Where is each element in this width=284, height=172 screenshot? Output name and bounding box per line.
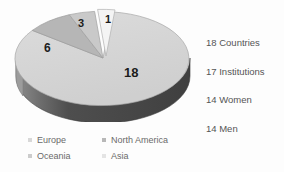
- pie-label-north-america: 6: [44, 42, 51, 54]
- legend-item-europe[interactable]: Europe: [28, 136, 102, 145]
- stat-men: 14 Men: [206, 124, 284, 134]
- legend-item-oceania[interactable]: Oceania: [28, 152, 102, 161]
- pie-label-oceania: 3: [78, 18, 84, 29]
- stat-women: 14 Women: [206, 95, 284, 105]
- legend-item-asia[interactable]: Asia: [102, 152, 129, 161]
- legend-swatch-asia: [102, 154, 106, 158]
- chart-legend: Europe North America Oceania Asia: [28, 132, 198, 164]
- pie-label-asia: 1: [105, 14, 111, 25]
- legend-label-oceania: Oceania: [37, 152, 71, 161]
- legend-row-1: Europe North America: [28, 132, 198, 148]
- summary-stats: 18 Countries 17 Institutions 14 Women 14…: [206, 38, 284, 152]
- pie-chart-figure: 18 6 3 1 18 Countries 17 Institutions 14…: [0, 0, 284, 172]
- legend-label-asia: Asia: [111, 152, 129, 161]
- stat-countries: 18 Countries: [206, 38, 284, 48]
- legend-swatch-europe: [28, 138, 32, 142]
- pie-chart-graphic: 18 6 3 1: [6, 2, 196, 122]
- legend-item-north-america[interactable]: North America: [102, 136, 168, 145]
- legend-row-2: Oceania Asia: [28, 148, 198, 164]
- legend-swatch-oceania: [28, 154, 32, 158]
- pie-slices: [15, 9, 189, 105]
- legend-label-north-america: North America: [111, 136, 168, 145]
- pie-label-europe: 18: [124, 66, 138, 79]
- legend-label-europe: Europe: [37, 136, 66, 145]
- stat-institutions: 17 Institutions: [206, 67, 284, 77]
- legend-swatch-north-america: [102, 138, 106, 142]
- pie-svg: [6, 2, 196, 122]
